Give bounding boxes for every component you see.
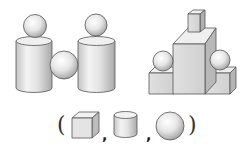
cylinder-icon bbox=[114, 112, 137, 138]
solid-figures-diagram bbox=[0, 0, 252, 154]
box-small-top bbox=[188, 10, 205, 32]
sphere-right-group-right bbox=[210, 50, 230, 70]
left-composite-figure bbox=[16, 14, 115, 93]
right-composite-figure bbox=[149, 10, 236, 94]
cube-icon bbox=[72, 112, 99, 138]
comma-separator-1: , bbox=[102, 128, 107, 142]
comma-separator-2: , bbox=[146, 128, 151, 142]
close-parenthesis: ) bbox=[188, 114, 197, 136]
sphere-icon bbox=[156, 112, 184, 140]
sphere-right-group-left bbox=[153, 51, 173, 71]
answer-prompt-shapes bbox=[72, 112, 184, 141]
cylinder-left bbox=[16, 37, 52, 93]
cylinder-right bbox=[78, 37, 115, 93]
box-tall-center bbox=[173, 28, 216, 94]
open-parenthesis: ( bbox=[57, 114, 66, 136]
sphere-top-right bbox=[85, 14, 107, 36]
sphere-middle bbox=[50, 51, 78, 79]
sphere-top-left bbox=[24, 15, 47, 38]
